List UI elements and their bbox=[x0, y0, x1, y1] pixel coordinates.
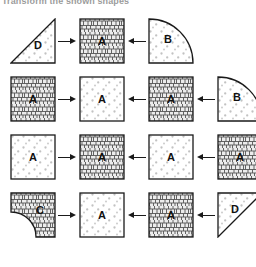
caption-strip: Transform the shown shapes bbox=[0, 0, 256, 11]
shape-grid: D A bbox=[0, 11, 256, 267]
figure-triangle-d: D bbox=[10, 18, 56, 64]
arrow-left-icon bbox=[196, 153, 215, 162]
arrow-cell bbox=[57, 74, 78, 124]
arrow-cell bbox=[195, 74, 216, 124]
shape-cell[interactable]: A bbox=[147, 132, 195, 182]
arrow-right-icon bbox=[58, 153, 77, 162]
figure-concave-c: C bbox=[10, 192, 56, 238]
figure-square-a-dots: A bbox=[79, 76, 125, 122]
shape-cell[interactable]: A bbox=[147, 74, 195, 124]
square-icon bbox=[148, 192, 194, 238]
shape-cell[interactable]: C bbox=[9, 190, 57, 240]
shape-cell[interactable]: B bbox=[147, 16, 195, 66]
figure-square-a-dots: A bbox=[148, 134, 194, 180]
figure-square-a-dots: A bbox=[10, 134, 56, 180]
arrow-cell bbox=[57, 132, 78, 182]
shape-cell[interactable]: A bbox=[147, 190, 195, 240]
row-left-pad bbox=[0, 74, 9, 124]
shape-cell[interactable]: A bbox=[78, 190, 126, 240]
arrow-cell bbox=[126, 16, 147, 66]
square-icon bbox=[79, 18, 125, 64]
shape-cell[interactable]: A bbox=[9, 74, 57, 124]
arrow-left-icon bbox=[196, 211, 215, 220]
row-left-pad bbox=[0, 16, 9, 66]
shape-cell[interactable]: D bbox=[9, 16, 57, 66]
arrow-cell bbox=[126, 190, 147, 240]
arrow-cell bbox=[57, 190, 78, 240]
arrow-cell bbox=[126, 74, 147, 124]
caption-text: Transform the shown shapes bbox=[2, 0, 129, 6]
square-icon bbox=[10, 134, 56, 180]
shape-transformation-diagram: Transform the shown shapes D bbox=[0, 0, 256, 267]
figure-square-a-dots: A bbox=[79, 192, 125, 238]
diagram-row: A A bbox=[0, 131, 256, 183]
square-icon bbox=[79, 134, 125, 180]
arrow-right-icon bbox=[58, 37, 77, 46]
figure-square-a-brick: A bbox=[79, 18, 125, 64]
square-minus-quarter-circle-icon bbox=[10, 192, 56, 238]
arrow-left-icon bbox=[196, 95, 215, 104]
square-icon bbox=[148, 76, 194, 122]
figure-quarter-circle-b: B bbox=[217, 76, 256, 122]
figure-square-a-brick: A bbox=[10, 76, 56, 122]
figure-square-a-brick: A bbox=[148, 76, 194, 122]
square-icon bbox=[79, 76, 125, 122]
arrow-left-icon bbox=[127, 211, 146, 220]
arrow-cell bbox=[126, 132, 147, 182]
arrow-right-icon bbox=[58, 95, 77, 104]
arrow-left-icon bbox=[127, 153, 146, 162]
row-left-pad bbox=[0, 132, 9, 182]
arrow-cell bbox=[195, 132, 216, 182]
quarter-circle-icon bbox=[148, 18, 194, 64]
figure-square-a-brick: A bbox=[217, 134, 256, 180]
arrow-cell bbox=[57, 16, 78, 66]
square-icon bbox=[79, 192, 125, 238]
figure-square-a-brick: A bbox=[79, 134, 125, 180]
triangle-right-angle-top-left-icon bbox=[217, 192, 256, 238]
shape-cell[interactable]: A bbox=[216, 132, 256, 182]
shape-cell[interactable]: B bbox=[216, 74, 256, 124]
figure-triangle-d: D bbox=[217, 192, 256, 238]
quarter-circle-icon bbox=[217, 76, 256, 122]
square-icon bbox=[217, 134, 256, 180]
arrow-right-icon bbox=[58, 211, 77, 220]
triangle-right-angle-bottom-right-icon bbox=[10, 18, 56, 64]
diagram-row: D A bbox=[0, 15, 256, 67]
shape-cell[interactable]: A bbox=[78, 16, 126, 66]
square-icon bbox=[10, 76, 56, 122]
diagram-row: A A bbox=[0, 73, 256, 125]
diagram-row: C A bbox=[0, 189, 256, 241]
row-left-pad bbox=[0, 190, 9, 240]
shape-cell[interactable]: A bbox=[9, 132, 57, 182]
figure-quarter-circle-b: B bbox=[148, 18, 194, 64]
arrow-cell bbox=[195, 190, 216, 240]
arrow-left-icon bbox=[127, 37, 146, 46]
arrow-left-icon bbox=[127, 95, 146, 104]
shape-cell[interactable]: D bbox=[216, 190, 256, 240]
figure-square-a-brick: A bbox=[148, 192, 194, 238]
shape-cell[interactable]: A bbox=[78, 74, 126, 124]
square-icon bbox=[148, 134, 194, 180]
shape-cell[interactable]: A bbox=[78, 132, 126, 182]
